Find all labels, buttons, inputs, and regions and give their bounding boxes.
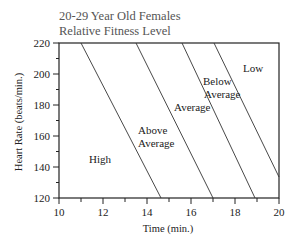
region-label-above-1: Above xyxy=(138,124,167,136)
x-tick-label: 14 xyxy=(142,206,154,218)
y-axis-labels: 220 200 180 160 140 120 xyxy=(34,37,51,204)
x-tick-label: 20 xyxy=(274,206,286,218)
region-label-high: High xyxy=(89,153,112,165)
y-tick-label: 140 xyxy=(34,161,51,173)
region-label-low: Low xyxy=(243,62,263,74)
x-tick-label: 16 xyxy=(186,206,198,218)
region-label-above-2: Average xyxy=(138,137,175,149)
y-tick-label: 220 xyxy=(34,37,51,49)
region-label-average: Average xyxy=(174,101,211,113)
y-tick-label: 180 xyxy=(34,99,51,111)
y-axis-title: Heart Rate (beats/min.) xyxy=(13,72,25,171)
region-labels: High Above Average Average Below Average… xyxy=(89,62,263,165)
x-axis-ticks xyxy=(59,198,279,204)
boundary-line-high-above xyxy=(81,43,161,198)
y-axis-ticks xyxy=(53,43,59,198)
boundary-line-above-average xyxy=(136,43,213,198)
y-tick-label: 120 xyxy=(34,192,51,204)
x-tick-label: 10 xyxy=(54,206,66,218)
x-axis-labels: 10 12 14 16 18 20 xyxy=(54,206,286,218)
region-label-below-1: Below xyxy=(203,75,232,87)
x-axis-title: Time (min.) xyxy=(143,223,194,235)
x-tick-label: 18 xyxy=(230,206,242,218)
y-tick-label: 160 xyxy=(34,130,51,142)
x-tick-label: 12 xyxy=(98,206,109,218)
y-tick-label: 200 xyxy=(34,68,51,80)
region-label-below-2: Average xyxy=(204,88,241,100)
fitness-chart: 220 200 180 160 140 120 10 12 14 16 18 2… xyxy=(0,0,295,247)
